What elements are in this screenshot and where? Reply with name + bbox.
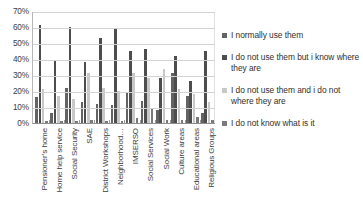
- bar: [75, 121, 78, 123]
- bar: [102, 88, 105, 123]
- bar: [136, 118, 139, 123]
- legend-item[interactable]: I normally use them: [222, 30, 361, 41]
- legend-label: I normally use them: [231, 30, 303, 41]
- x-axis: Pensioner’s homeHome help serviceSocial …: [33, 126, 216, 217]
- legend-swatch-icon: [222, 55, 227, 60]
- gridline: [33, 60, 215, 61]
- bar: [105, 121, 108, 123]
- bar-chart: 0%10%20%30%40%50%60%70% Pensioner’s home…: [0, 0, 363, 217]
- x-tick: Home help service: [48, 126, 63, 217]
- bar: [156, 110, 159, 123]
- gridline: [33, 108, 215, 109]
- bar: [159, 78, 162, 123]
- chart-legend: I normally use themI do not use them but…: [222, 30, 361, 141]
- bar: [151, 109, 154, 123]
- gridline: [33, 44, 215, 45]
- bar: [50, 113, 53, 123]
- gridline: [33, 12, 215, 13]
- bar: [171, 73, 174, 123]
- bar: [132, 73, 135, 123]
- y-tick-label: 10%: [13, 104, 29, 112]
- x-tick: Social Services: [140, 126, 155, 217]
- bar: [35, 97, 38, 123]
- y-tick-label: 0%: [17, 120, 29, 128]
- bar: [174, 56, 177, 123]
- bar: [81, 102, 84, 123]
- legend-swatch-icon: [222, 33, 227, 38]
- bar: [204, 51, 207, 123]
- x-tick: Culture areas: [170, 126, 185, 217]
- bar: [196, 117, 199, 123]
- bar: [181, 120, 184, 123]
- x-tick: Educational areas: [186, 126, 201, 217]
- x-tick: SAE: [79, 126, 94, 217]
- y-tick-label: 70%: [13, 8, 29, 16]
- legend-item[interactable]: I do not use them but i know where they …: [222, 52, 361, 74]
- bar: [166, 120, 169, 123]
- y-tick-label: 20%: [13, 88, 29, 96]
- bar: [189, 81, 192, 123]
- x-tick: IMSERSO: [125, 126, 140, 217]
- bar: [72, 99, 75, 123]
- bar: [90, 120, 93, 123]
- bar: [141, 101, 144, 123]
- y-tick-label: 60%: [13, 24, 29, 32]
- bar: [208, 102, 211, 123]
- y-tick-label: 50%: [13, 40, 29, 48]
- x-tick: Social Security: [64, 126, 79, 217]
- y-tick-label: 30%: [13, 72, 29, 80]
- y-axis: 0%10%20%30%40%50%60%70%: [0, 12, 31, 124]
- bar: [87, 73, 90, 123]
- bar: [211, 120, 214, 123]
- x-tick: Social Work: [155, 126, 170, 217]
- legend-item[interactable]: I do not know what is it: [222, 118, 361, 129]
- bar: [57, 96, 60, 123]
- bar: [129, 51, 132, 123]
- legend-label: I do not know what is it: [231, 118, 315, 129]
- bar: [99, 38, 102, 123]
- y-tick-label: 40%: [13, 56, 29, 64]
- x-tick: District Workshops: [94, 126, 109, 217]
- plot-area: [32, 12, 215, 124]
- gridline: [33, 76, 215, 77]
- legend-item[interactable]: I do not use them and i do not where the…: [222, 85, 361, 107]
- bar: [178, 89, 181, 123]
- bar: [60, 121, 63, 123]
- bar: [121, 121, 124, 123]
- legend-swatch-icon: [222, 121, 227, 126]
- bar: [65, 88, 68, 123]
- legend-label: I do not use them and i do not where the…: [231, 85, 361, 107]
- x-tick: Pensioner’s home: [33, 126, 48, 217]
- bar: [201, 113, 204, 123]
- legend-swatch-icon: [222, 88, 227, 93]
- legend-label: I do not use them but i know where they …: [231, 52, 361, 74]
- x-tick: Religious Groups: [201, 126, 216, 217]
- bar: [42, 89, 45, 123]
- bar: [96, 104, 99, 123]
- bar: [186, 96, 189, 123]
- x-tick-label: Religious Groups: [208, 128, 216, 188]
- bar: [45, 121, 48, 123]
- bar: [147, 78, 150, 123]
- bar: [117, 91, 120, 123]
- x-tick: Neighborhood…: [109, 126, 124, 217]
- gridline: [33, 92, 215, 93]
- gridline: [33, 28, 215, 29]
